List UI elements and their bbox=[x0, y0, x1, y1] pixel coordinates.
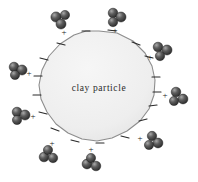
molecule-sphere bbox=[155, 51, 164, 60]
cation-top-left: + bbox=[51, 10, 70, 37]
molecule-sphere bbox=[153, 138, 163, 148]
molecule-sphere bbox=[91, 161, 101, 171]
cation-bottom-right: + bbox=[137, 131, 162, 149]
cation-top-right: + bbox=[108, 8, 126, 35]
molecule-sphere bbox=[60, 10, 69, 19]
molecule-sphere bbox=[86, 153, 95, 162]
positive-charge: + bbox=[49, 138, 54, 148]
positive-charge: + bbox=[162, 90, 167, 100]
positive-charge: + bbox=[88, 144, 93, 154]
cation-bottom-left: + bbox=[39, 138, 57, 163]
cation-left-lower: + bbox=[12, 107, 35, 124]
negative-charge bbox=[51, 128, 59, 131]
positive-charge: + bbox=[112, 25, 117, 35]
cation-right-lower: + bbox=[162, 87, 187, 105]
positive-charge: + bbox=[61, 27, 66, 37]
molecule-sphere bbox=[169, 96, 178, 105]
positive-charge: + bbox=[147, 52, 152, 62]
cation-left-upper: + bbox=[9, 62, 31, 79]
cation-right-upper: + bbox=[147, 42, 172, 62]
negative-charge bbox=[39, 112, 47, 114]
diagram-canvas: clay particle bbox=[0, 0, 198, 182]
negative-charge bbox=[40, 58, 48, 60]
molecule-sphere bbox=[10, 70, 19, 79]
negative-charge bbox=[121, 136, 129, 138]
positive-charge: + bbox=[30, 111, 35, 121]
cation-bottom-center: + bbox=[82, 144, 101, 171]
negative-charge bbox=[71, 140, 79, 142]
molecule-sphere bbox=[153, 42, 163, 52]
molecule-sphere bbox=[178, 94, 188, 104]
positive-charge: + bbox=[26, 68, 31, 78]
clay-particle-figure: clay particle bbox=[0, 0, 198, 182]
molecule-sphere bbox=[144, 140, 153, 149]
molecule-sphere bbox=[12, 115, 21, 124]
clay-particle-label: clay particle bbox=[72, 83, 126, 93]
molecule-sphere bbox=[48, 153, 57, 162]
positive-charge: + bbox=[137, 133, 142, 143]
